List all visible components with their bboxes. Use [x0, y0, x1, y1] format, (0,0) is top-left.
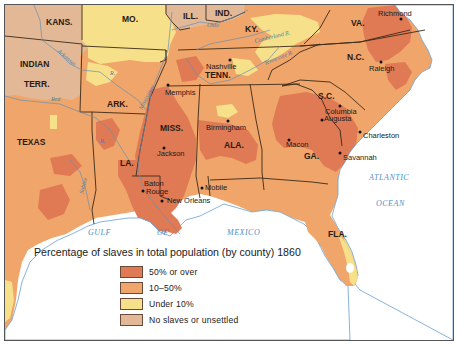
water-label-ocean: OCEAN: [376, 199, 405, 208]
state-label-ill: ILL.: [183, 11, 198, 21]
city-label-raleigh: Raleigh: [369, 64, 394, 73]
city-label-macon: Macon: [286, 140, 309, 149]
city-label-savannah: Savannah: [343, 153, 377, 162]
state-label-kans: KANS.: [46, 17, 72, 27]
river-label-red: Red: [50, 96, 61, 102]
city-label-jackson: Jackson: [157, 149, 185, 158]
state-label-ga: GA.: [304, 151, 319, 161]
legend-item-no-slaves: No slaves or unsettled: [120, 312, 238, 328]
legend-label-no-slaves: No slaves or unsettled: [149, 315, 238, 325]
state-label-tenn: TENN.: [205, 70, 231, 80]
river-label-ohio: Ohio: [207, 22, 219, 28]
legend-item-ten-to-fifty: 10–50%: [120, 280, 238, 296]
legend-item-fifty-plus: 50% or over: [120, 264, 238, 280]
state-label-sc: S.C.: [318, 91, 335, 101]
state-label-ind: IND.: [215, 8, 232, 18]
legend-swatch-no-slaves: [120, 314, 143, 326]
state-label-la: LA.: [120, 158, 134, 168]
state-label-mo: MO.: [122, 14, 138, 24]
state-label-terr: TERR.: [24, 79, 50, 89]
legend-swatch-fifty-plus: [120, 266, 143, 278]
legend: 50% or over 10–50% Under 10% No slaves o…: [120, 264, 238, 328]
lake-okeechobee: [346, 263, 354, 273]
city-dot-charleston: [359, 131, 362, 134]
river-label-r-ark: R.: [109, 70, 115, 76]
state-label-texas: TEXAS: [17, 137, 46, 147]
city-label-nashville: Nashville: [206, 62, 236, 71]
state-label-indian: INDIAN: [20, 59, 49, 69]
legend-label-ten-to-fifty: 10–50%: [149, 283, 182, 293]
city-dot-savannah: [339, 152, 342, 155]
city-label-richmond: Richmond: [378, 9, 412, 18]
legend-label-fifty-plus: 50% or over: [149, 267, 198, 277]
state-label-nc: N.C.: [347, 52, 364, 62]
water-label-of: OF: [157, 228, 169, 237]
city-dot-memphis: [167, 84, 170, 87]
state-label-ky: KY.: [245, 24, 258, 34]
state-label-ark: ARK.: [107, 99, 128, 109]
water-label-gulf: GULF: [88, 228, 111, 237]
legend-swatch-under-ten: [120, 298, 143, 310]
city-label-mobile: Mobile: [205, 183, 227, 192]
state-label-fla: FLA.: [328, 229, 347, 239]
city-label-memphis: Memphis: [165, 88, 196, 97]
state-label-va: VA.: [351, 18, 365, 28]
city-label-augusta: Augusta: [324, 114, 352, 123]
legend-label-under-ten: Under 10%: [149, 299, 194, 309]
water-label-mexico: MEXICO: [226, 228, 260, 237]
river-label-r-la: R.: [99, 138, 105, 144]
water-label-atlantic: ATLANTIC: [368, 173, 409, 182]
region-under-10-texas-spot: [50, 115, 57, 129]
city-label-charleston: Charleston: [363, 131, 399, 140]
city-label-rouge: Rouge: [146, 187, 168, 196]
legend-item-under-ten: Under 10%: [120, 296, 238, 312]
state-label-ala: ALA.: [224, 140, 244, 150]
city-label-new-orleans: New Orleans: [167, 196, 211, 205]
legend-title: Percentage of slaves in total population…: [34, 246, 301, 258]
city-label-birmingham: Birmingham: [206, 123, 246, 132]
city-dot-new-orleans: [161, 200, 164, 203]
state-label-miss: MISS.: [160, 123, 183, 133]
legend-swatch-ten-to-fifty: [120, 282, 143, 294]
city-dot-mobile: [201, 187, 204, 190]
city-dot-baton-rouge: [142, 190, 145, 193]
